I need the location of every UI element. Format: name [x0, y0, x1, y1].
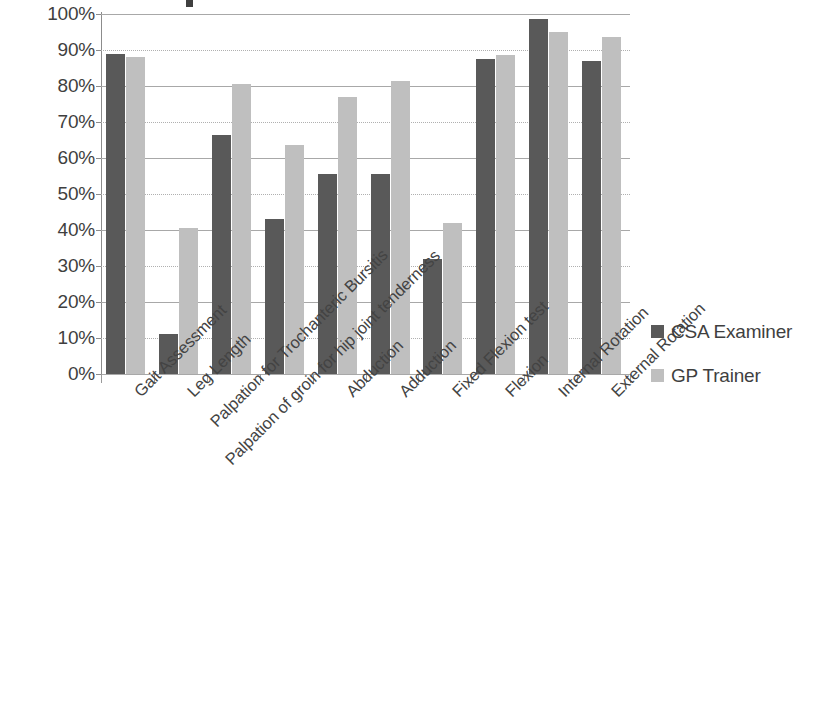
y-axis-tick-label: 80% [9, 76, 95, 95]
bar-group [101, 14, 154, 374]
y-axis-tick-label: 20% [9, 292, 95, 311]
y-axis-tick-label: 60% [9, 148, 95, 167]
chart-legend: CSA Examiner GP Trainer [651, 316, 811, 404]
legend-item-label: GP Trainer [671, 366, 761, 385]
bar-group [418, 14, 471, 374]
chart-title-marker [186, 0, 193, 7]
y-axis-tick-label: 50% [9, 184, 95, 203]
y-axis-tick-label: 90% [9, 40, 95, 59]
y-axis-tick-label: 100% [9, 4, 95, 23]
legend-swatch-icon [651, 369, 664, 382]
bar [126, 57, 145, 374]
y-axis-tick-label: 10% [9, 328, 95, 347]
y-axis-tick-label: 30% [9, 256, 95, 275]
bar [582, 61, 601, 374]
legend-item-label: CSA Examiner [671, 322, 792, 341]
bar-chart: 100%90%80%70%60%50%40%30%20%10%0% Gait A… [0, 0, 814, 707]
bar [212, 135, 231, 374]
x-axis-category-labels: Gait AssessmentLeg LengthPalpation for T… [0, 374, 700, 614]
bar [476, 59, 495, 374]
legend-item-csa-examiner[interactable]: CSA Examiner [651, 316, 811, 346]
bar [106, 54, 125, 374]
bar [391, 81, 410, 374]
bar [549, 32, 568, 374]
legend-item-gp-trainer[interactable]: GP Trainer [651, 360, 811, 390]
y-axis-tick-label: 70% [9, 112, 95, 131]
y-axis-tick-label: 40% [9, 220, 95, 239]
legend-swatch-icon [651, 325, 664, 338]
